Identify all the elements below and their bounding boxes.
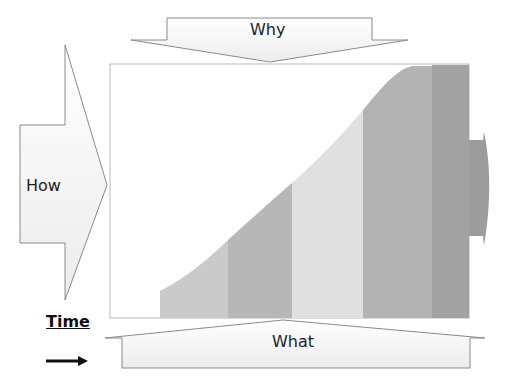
time-arrow-icon xyxy=(46,356,88,366)
time-label: Time xyxy=(46,312,90,331)
what-label: What xyxy=(272,332,314,351)
stage-band-5-full xyxy=(432,65,469,318)
how-arrow-icon xyxy=(20,45,107,300)
stage-band-4 xyxy=(363,64,432,318)
how-label: How xyxy=(26,176,61,195)
right-arrow-icon xyxy=(469,132,489,246)
why-label: Why xyxy=(250,20,285,39)
